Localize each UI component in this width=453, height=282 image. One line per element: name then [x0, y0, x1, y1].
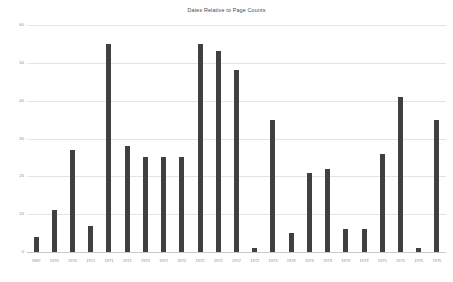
bar — [325, 169, 330, 252]
bar — [362, 229, 367, 252]
bar — [70, 150, 75, 252]
x-tick-label: 1973 — [360, 259, 369, 263]
x-tick-label: 1970 — [50, 259, 59, 263]
bar — [179, 157, 184, 252]
bar — [34, 237, 39, 252]
x-tick-label: 1973 — [268, 259, 277, 263]
x-tick-label: 1975 — [396, 259, 405, 263]
y-tick-label: 30 — [19, 136, 24, 140]
x-tick-label: 1972 — [177, 259, 186, 263]
y-tick-label: 60 — [19, 23, 24, 27]
x-tick-label: 1971 — [86, 259, 95, 263]
bar — [434, 120, 439, 252]
x-tick-label: 1972 — [159, 259, 168, 263]
bar — [216, 51, 221, 252]
x-axis-line — [27, 252, 446, 253]
x-tick-label: 1975 — [378, 259, 387, 263]
bar — [398, 97, 403, 252]
y-tick-label: 0 — [22, 250, 24, 254]
bar — [307, 173, 312, 252]
y-tick-label: 50 — [19, 61, 24, 65]
bars-layer — [27, 25, 446, 252]
bar — [289, 233, 294, 252]
x-axis: 1969197019701971197119711972197219721972… — [27, 254, 446, 270]
x-tick-label: 1972 — [196, 259, 205, 263]
x-tick-label: 1971 — [105, 259, 114, 263]
bar — [106, 44, 111, 252]
bar — [234, 70, 239, 252]
bar — [88, 226, 93, 252]
x-tick-label: 1973 — [287, 259, 296, 263]
x-tick-label: 1973 — [323, 259, 332, 263]
x-tick-label: 1969 — [32, 259, 41, 263]
x-tick-label: 1972 — [141, 259, 150, 263]
x-tick-label: 1973 — [341, 259, 350, 263]
x-tick-label: 1973 — [305, 259, 314, 263]
y-axis: 0102030405060 — [0, 25, 27, 252]
bar — [198, 44, 203, 252]
bar — [380, 154, 385, 252]
bar — [125, 146, 130, 252]
bar — [52, 210, 57, 252]
bar — [343, 229, 348, 252]
y-tick-label: 40 — [19, 99, 24, 103]
x-tick-label: 1975 — [414, 259, 423, 263]
x-tick-label: 1975 — [432, 259, 441, 263]
bar — [161, 157, 166, 252]
bar-chart: Dates Relative to Page Counts 0102030405… — [0, 0, 453, 282]
x-tick-label: 1971 — [123, 259, 132, 263]
x-tick-label: 1972 — [232, 259, 241, 263]
chart-title: Dates Relative to Page Counts — [0, 7, 453, 13]
x-tick-label: 1972 — [214, 259, 223, 263]
y-tick-label: 20 — [19, 174, 24, 178]
x-tick-label: 1970 — [68, 259, 77, 263]
y-tick-label: 10 — [19, 212, 24, 216]
bar — [270, 120, 275, 252]
x-tick-label: 1972 — [250, 259, 259, 263]
bar — [143, 157, 148, 252]
